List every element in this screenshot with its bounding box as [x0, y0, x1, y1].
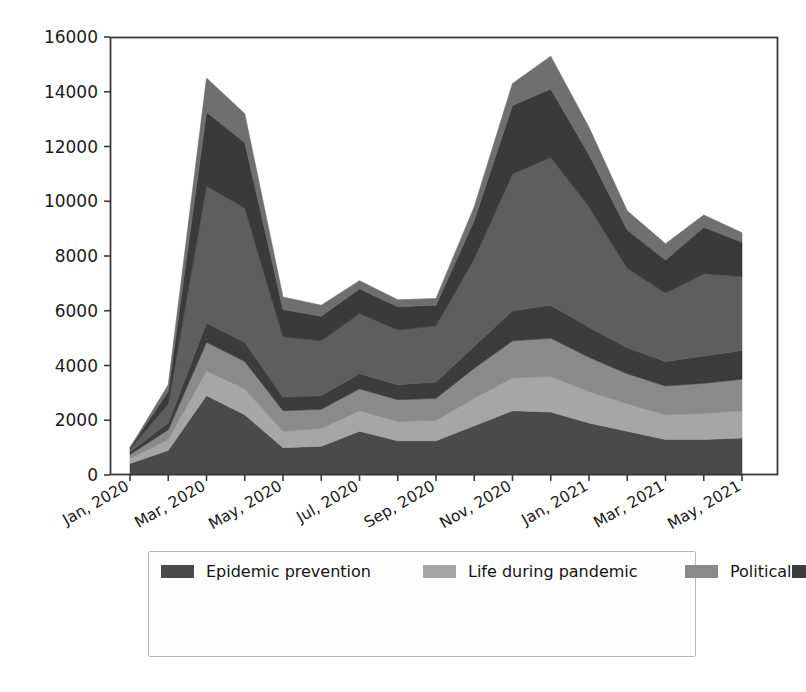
legend-item[interactable]: Life during pandemic — [423, 560, 685, 583]
legend-item-label: Life during pandemic — [468, 564, 638, 580]
x-tick-labels: Jan, 2020Mar, 2020May, 2020Jul, 2020Sep,… — [59, 475, 744, 533]
x-tick-label: May, 2020 — [206, 477, 285, 533]
y-tick-labels: 0200040006000800010000120001400016000 — [44, 27, 110, 485]
x-tick-label: Jan, 2021 — [518, 477, 591, 530]
x-tick-label: Jul, 2020 — [293, 477, 362, 527]
y-tick-label: 14000 — [44, 82, 98, 102]
x-tick-label: Nov, 2020 — [437, 477, 515, 532]
y-tick-label: 10000 — [44, 191, 98, 211]
legend-item-label: Epidemic prevention — [206, 564, 371, 580]
legend-swatch-icon — [792, 565, 806, 578]
x-tick-label: Mar, 2020 — [131, 477, 208, 532]
y-tick-label: 2000 — [55, 410, 98, 430]
legend-swatch-icon — [161, 565, 194, 578]
y-tick-label: 6000 — [55, 301, 98, 321]
chart-legend: Epidemic preventionLife during pandemicP… — [148, 551, 696, 657]
y-tick-label: 4000 — [55, 356, 98, 376]
figure-container: 0200040006000800010000120001400016000 Ja… — [0, 0, 806, 692]
x-tick-label: May, 2021 — [665, 477, 744, 533]
y-tick-label: 12000 — [44, 137, 98, 157]
x-tick-label: Sep, 2020 — [361, 477, 438, 532]
legend-item[interactable]: Vaccination — [792, 560, 806, 583]
y-tick-label: 0 — [87, 465, 98, 485]
legend-swatch-icon — [423, 565, 456, 578]
legend-item[interactable]: Political — [685, 560, 792, 583]
y-tick-label: 8000 — [55, 246, 98, 266]
legend-item[interactable]: Epidemic prevention — [161, 560, 423, 583]
legend-item-label: Political — [730, 564, 792, 580]
legend-items: Epidemic preventionLife during pandemicP… — [161, 560, 685, 583]
x-tick-label: Mar, 2021 — [590, 477, 667, 532]
y-tick-label: 16000 — [44, 27, 98, 47]
legend-swatch-icon — [685, 565, 718, 578]
